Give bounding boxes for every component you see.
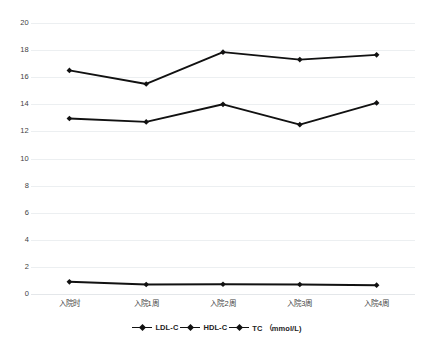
y-axis-tick-16: 16 [3, 73, 29, 81]
legend-item-0[interactable]: LDL-C [131, 323, 179, 332]
legend-label: LDL-C [155, 323, 178, 332]
data-point [374, 282, 380, 288]
series-hdl-c [67, 279, 380, 288]
y-axis-tick-8: 8 [3, 182, 29, 190]
y-axis-tick-6: 6 [3, 209, 29, 217]
plot-area [31, 23, 415, 294]
legend-marker-icon [180, 324, 200, 332]
gridline-0 [31, 294, 415, 295]
data-point [297, 282, 303, 288]
data-point [297, 57, 303, 63]
y-axis-tick-0: 0 [3, 290, 29, 298]
x-axis-label-2: 入院2周 [185, 300, 262, 314]
x-axis-label-4: 入院4周 [338, 300, 415, 314]
x-axis-label-0: 入院时 [31, 300, 108, 314]
series-line [69, 52, 376, 84]
chart-legend: LDL-CHDL-CTC （mmol/L) [0, 322, 434, 333]
legend-item-2[interactable]: TC （mmol/L) [228, 322, 302, 333]
legend-marker-icon [229, 324, 249, 332]
series-layer [31, 23, 415, 294]
data-point [143, 81, 149, 87]
x-axis-labels: 入院时入院1周入院2周入院3周入院4周 [31, 300, 415, 314]
y-axis-tick-14: 14 [3, 101, 29, 109]
y-axis-tick-2: 2 [3, 263, 29, 271]
y-axis-tick-12: 12 [3, 128, 29, 136]
legend-label: TC （mmol/L) [252, 322, 301, 333]
y-axis-tick-4: 4 [3, 236, 29, 244]
data-point [67, 279, 73, 285]
data-point [297, 122, 303, 128]
line-chart: 20181614121086420 入院时入院1周入院2周入院3周入院4周 LD… [0, 0, 434, 349]
y-axis-tick-10: 10 [3, 155, 29, 163]
x-axis-label-3: 入院3周 [261, 300, 338, 314]
data-point [374, 100, 380, 106]
y-axis-tick-20: 20 [3, 19, 29, 27]
data-point [143, 119, 149, 125]
data-point [374, 52, 380, 58]
legend-label: HDL-C [203, 323, 227, 332]
y-axis-tick-18: 18 [3, 46, 29, 54]
data-point [220, 49, 226, 55]
legend-item-1[interactable]: HDL-C [179, 323, 228, 332]
y-axis: 20181614121086420 [0, 23, 29, 294]
data-point [143, 282, 149, 288]
data-point [67, 68, 73, 74]
series-tcmmoll [67, 49, 380, 86]
series-ldl-c [67, 100, 380, 127]
data-point [67, 116, 73, 122]
x-axis-label-1: 入院1周 [108, 300, 185, 314]
data-point [220, 281, 226, 287]
data-point [220, 101, 226, 107]
legend-marker-icon [132, 324, 152, 332]
